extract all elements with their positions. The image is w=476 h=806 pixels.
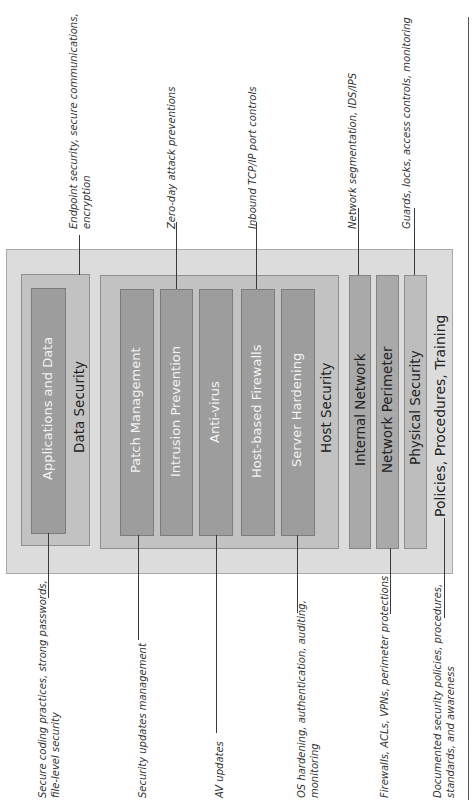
callout-text-line: Documented security policies, procedures… [431, 584, 444, 798]
callout-internal-network: Network segmentation, IDS/IPS [346, 73, 359, 229]
callout-line-antivirus [216, 535, 217, 733]
callout-intrusion-prevention: Zero-day attack preventions [165, 87, 178, 229]
frame-line [468, 17, 469, 800]
layer-intrusion-prevention-label: Intrusion Prevention [169, 346, 182, 477]
layer-patch-management-label: Patch Management [129, 348, 142, 473]
callout-text-line: file-level security [49, 580, 62, 798]
layer-network-perimeter-label: Network Perimeter [381, 346, 395, 473]
layer-internal-network-label: Internal Network [354, 353, 368, 466]
callout-text-line: standards, and awareness [444, 584, 457, 798]
layer-host-based-firewalls-label: Host-based Firewalls [250, 345, 263, 478]
callout-text-line: OS hardening, authentication, auditing, [295, 600, 308, 798]
callout-network-perimeter: Firewalls, ACLs, VPNs, perimeter protect… [378, 576, 391, 798]
layer-server-hardening-label: Server Hardening [290, 353, 303, 467]
callout-line-firewalls [256, 222, 257, 289]
callout-server-hardening: OS hardening, authentication, auditing, … [295, 600, 321, 798]
callout-policies: Documented security policies, procedures… [431, 584, 457, 798]
callout-data-security: Endpoint security, secure communications… [67, 13, 93, 229]
callout-text-line: Secure coding practices, strong password… [36, 580, 49, 798]
layer-physical-security-label: Physical Security [409, 350, 423, 465]
layer-host-security-label: Host Security [320, 363, 334, 453]
callout-patch-management: Security updates management [136, 643, 149, 798]
callout-line-physical [414, 208, 415, 275]
callout-host-firewalls: Inbound TCP/IP port controls [246, 87, 259, 229]
callout-anti-virus: AV updates [213, 741, 226, 798]
callout-line-intrusion [176, 222, 177, 289]
layer-policies-label: Policies, Procedures, Training [433, 315, 447, 517]
callout-line-patch [138, 535, 139, 640]
callout-text-line: monitoring [308, 600, 321, 798]
layer-applications-data-label: Applications and Data [41, 337, 54, 480]
layer-data-security-label: Data Security [73, 361, 87, 453]
callout-physical-security: Guards, locks, access controls, monitori… [400, 17, 413, 229]
callout-applications: Secure coding practices, strong password… [36, 580, 62, 798]
callout-text-line: encryption [80, 13, 93, 229]
layer-anti-virus-label: Anti-virus [208, 381, 221, 443]
callout-text-line: Endpoint security, secure communications… [67, 13, 80, 229]
callout-line-data [79, 235, 80, 275]
